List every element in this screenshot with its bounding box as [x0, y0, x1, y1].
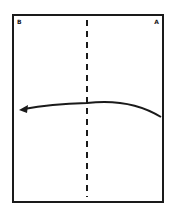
fold-diagram-overlay	[0, 0, 177, 211]
fold-arrow-curve	[24, 102, 161, 117]
arrowhead-left-icon	[19, 105, 28, 113]
